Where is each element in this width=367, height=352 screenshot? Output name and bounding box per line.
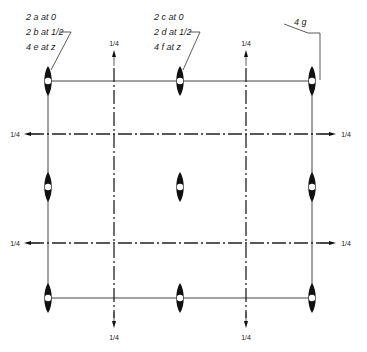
arrow-up-icon bbox=[112, 50, 116, 57]
fraction-left-lower: 1/4 bbox=[10, 240, 20, 247]
fraction-bottom-left: 1/4 bbox=[109, 334, 119, 341]
fraction-right-upper: 1/4 bbox=[341, 131, 351, 138]
symmetry-diagram: 1/4 1/4 1/4 1/4 1/4 1/4 1/4 1/4 2 a at 0… bbox=[0, 0, 367, 352]
fraction-bottom-right: 1/4 bbox=[241, 334, 251, 341]
center-wyckoff-label: 2 c at 0 2 d at 1/2 4 f at z bbox=[153, 12, 192, 52]
svg-text:4 f at z: 4 f at z bbox=[154, 42, 182, 52]
twofold-axis-icon bbox=[308, 172, 316, 202]
svg-text:2 b at 1/2: 2 b at 1/2 bbox=[25, 27, 64, 37]
center-label-leader bbox=[183, 32, 200, 70]
fraction-right-lower: 1/4 bbox=[341, 240, 351, 247]
general-position-label: 4 g bbox=[294, 17, 307, 27]
svg-text:4 e at z: 4 e at z bbox=[26, 42, 56, 52]
fraction-left-upper: 1/4 bbox=[10, 131, 20, 138]
svg-text:2 c at 0: 2 c at 0 bbox=[153, 12, 184, 22]
fraction-top-right: 1/4 bbox=[241, 40, 251, 47]
arrow-down-icon bbox=[112, 321, 116, 328]
twofold-axis-icon bbox=[176, 283, 184, 313]
corner-wyckoff-label: 2 a at 0 2 b at 1/2 4 e at z bbox=[25, 12, 64, 52]
arrow-down-icon bbox=[244, 321, 248, 328]
fraction-top-left: 1/4 bbox=[109, 40, 119, 47]
twofold-axis-icon bbox=[308, 66, 316, 96]
twofold-axis-icon bbox=[176, 66, 184, 96]
svg-text:2 d at 1/2: 2 d at 1/2 bbox=[153, 27, 192, 37]
twofold-axis-icon bbox=[176, 172, 184, 202]
twofold-axis-icon bbox=[308, 283, 316, 313]
arrow-right-icon bbox=[329, 241, 336, 245]
arrow-left-icon bbox=[24, 132, 31, 136]
svg-text:2 a at 0: 2 a at 0 bbox=[25, 12, 56, 22]
twofold-axis-icon bbox=[44, 172, 52, 202]
twofold-axis-icon bbox=[44, 66, 52, 96]
twofold-axes bbox=[44, 66, 316, 313]
arrow-right-icon bbox=[329, 132, 336, 136]
arrow-left-icon bbox=[24, 241, 31, 245]
twofold-axis-icon bbox=[44, 283, 52, 313]
arrow-up-icon bbox=[244, 50, 248, 57]
